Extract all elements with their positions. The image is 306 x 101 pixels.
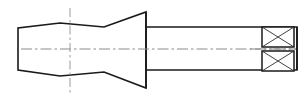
technical-drawing-canvas [0, 0, 306, 101]
section-box-lower [262, 51, 294, 71]
drawing-svg [0, 0, 306, 101]
section-box-upper [262, 27, 294, 47]
